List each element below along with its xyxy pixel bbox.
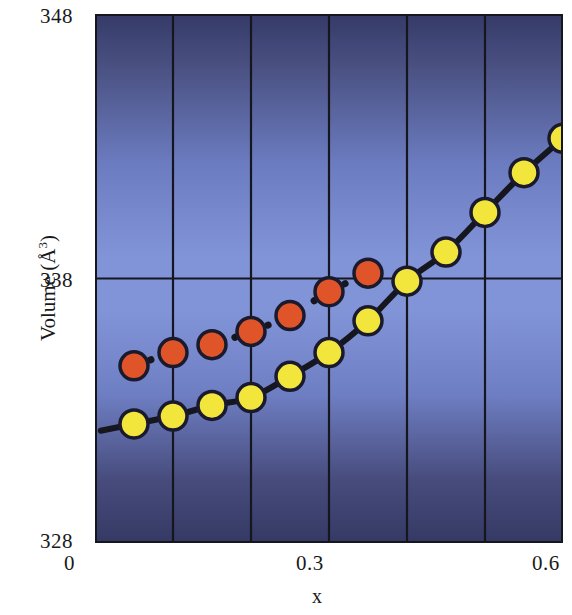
y-axis-title-exponent: 3 [35,242,50,249]
data-point-yellow-series-5 [315,339,343,367]
x-axis-tick-label-06: 0.6 [532,551,560,576]
x-axis-tick-label-03: 0.3 [296,551,324,576]
y-axis-title: Volume (Å3) [35,198,61,378]
x-axis-tick-label-0: 0 [64,551,75,576]
y-axis-tick-label-348: 348 [40,4,73,29]
data-point-red-series-0 [120,352,148,380]
chart-figure: 348 338 328 0 0.3 0.6 x Volume (Å3) [0,0,572,615]
data-point-red-series-6 [354,259,382,287]
data-point-red-series-2 [198,331,226,359]
data-point-red-series-1 [159,339,187,367]
x-axis-title: x [312,585,323,608]
data-point-yellow-series-9 [471,198,499,226]
data-point-yellow-series-3 [237,384,265,412]
data-point-yellow-series-11 [549,124,563,152]
data-point-yellow-series-7 [393,267,421,295]
data-point-yellow-series-2 [198,391,226,419]
data-point-yellow-series-10 [510,159,538,187]
plot-canvas [95,14,563,543]
y-axis-title-main: Volume (Å [36,249,60,341]
data-point-yellow-series-6 [354,307,382,335]
data-point-red-series-4 [276,302,304,330]
data-point-yellow-series-1 [159,402,187,430]
plot-area [95,14,563,543]
data-point-yellow-series-8 [432,238,460,266]
data-point-red-series-3 [237,317,265,345]
data-point-red-series-5 [315,278,343,306]
data-point-yellow-series-0 [120,410,148,438]
y-axis-title-tail: ) [36,235,60,242]
data-point-yellow-series-4 [276,362,304,390]
